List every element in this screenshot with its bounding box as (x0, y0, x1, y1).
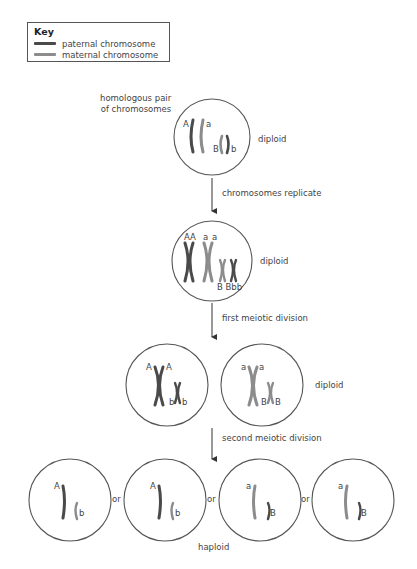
chromosome-AA-replicated (185, 243, 193, 281)
cell-stage4-2 (124, 459, 206, 541)
or-label-1: or (112, 494, 121, 504)
diploid-label-3: diploid (315, 380, 343, 390)
or-label-2: or (207, 494, 216, 504)
chromosome-A-paternal (191, 120, 193, 152)
allele-b2-label: b (182, 397, 187, 407)
step-label-replicate: chromosomes replicate (222, 188, 321, 198)
allele-cell4-4-top: a (338, 481, 343, 491)
allele-B-label: B (213, 144, 219, 154)
allele-b-label: b (231, 144, 236, 154)
allele-cell4-4-bottom: B (361, 508, 367, 518)
step-label-first-division: first meiotic division (222, 313, 308, 323)
allele-a1-right-label: a (241, 362, 246, 372)
cell-stage3-left (126, 344, 208, 426)
allele-a2-label: a (212, 232, 217, 242)
step-label-second-division: second meiotic division (222, 433, 322, 443)
chromosome-bb-replicated (231, 260, 236, 281)
chromosome-aa-replicated (204, 243, 212, 281)
allele-cell4-2-top: A (150, 481, 156, 491)
or-label-3: or (301, 494, 310, 504)
allele-cell4-1-bottom: b (79, 508, 84, 518)
allele-cell4-3-bottom: B (270, 508, 276, 518)
allele-b1-label: b (169, 397, 174, 407)
cell-stage4-1 (29, 459, 111, 541)
cell-stage4-4 (312, 459, 394, 541)
chromosome-b-paternal (227, 136, 229, 153)
allele-cell4-3-top: a (246, 481, 251, 491)
allele-A2-label: A (166, 362, 172, 372)
chromosome-B-maternal (221, 136, 223, 153)
diploid-label-2: diploid (260, 256, 288, 266)
homologous-label-line1: homologous pair (100, 93, 171, 104)
meiosis-diagram (0, 0, 417, 569)
cell-stage3-right (221, 344, 303, 426)
allele-B2-label: B (275, 397, 281, 407)
allele-B1-label: B (261, 397, 267, 407)
allele-a2-right-label: a (259, 362, 264, 372)
allele-cell4-1-top: A (54, 481, 60, 491)
allele-A1-label: A (146, 362, 152, 372)
chromosome-BB-replicated (220, 260, 225, 281)
allele-cell4-2-bottom: b (175, 508, 180, 518)
allele-AA-label: AA (184, 232, 196, 242)
chromosome-a-maternal (201, 120, 203, 152)
homologous-label-line2: of chromosomes (100, 104, 171, 115)
haploid-label: haploid (198, 542, 229, 552)
allele-A-label: A (183, 119, 189, 129)
allele-BBbb-label: B Bbb (217, 282, 242, 292)
homologous-pair-label: homologous pair of chromosomes (100, 93, 171, 115)
cell-stage4-3 (219, 459, 301, 541)
allele-a1-label: a (203, 232, 208, 242)
cell-stage1 (174, 99, 250, 175)
diploid-label-1: diploid (258, 134, 286, 144)
allele-a-label: a (206, 119, 211, 129)
